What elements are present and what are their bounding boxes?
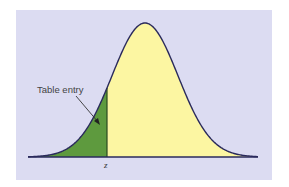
annotation-label: Table entry	[37, 84, 84, 95]
figure-panel: Table entry z	[16, 10, 272, 180]
z-tick-label: z	[103, 160, 108, 170]
normal-curve-figure: Table entry z	[16, 10, 272, 180]
